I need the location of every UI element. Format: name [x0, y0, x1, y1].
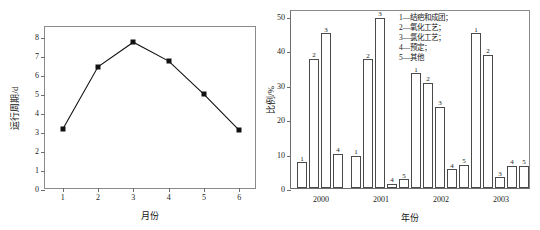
figure-container: 012345678 123456 月份 运行周期/d 01020304050 1…: [0, 0, 540, 230]
x-axis-tick-label: 2: [96, 194, 100, 202]
x-axis-tick-label: 4: [167, 194, 171, 202]
bar-2003-2: [483, 55, 494, 188]
data-point-marker: [166, 59, 171, 64]
y-axis-tick-label: 3: [35, 129, 39, 137]
y-axis-tick: [287, 18, 291, 19]
y-axis-tick-label: 6: [35, 72, 39, 80]
bar-2000-2: [309, 59, 320, 188]
bar-value-label: 4: [390, 177, 394, 184]
bar-value-label: 4: [336, 147, 340, 154]
bar-2003-3: [495, 177, 506, 188]
y-axis-tick-label: 0: [281, 186, 285, 194]
bar-2001-3: [375, 18, 386, 188]
bar-value-label: 3: [324, 27, 328, 34]
data-point-marker: [60, 127, 65, 132]
y-axis-tick-label: 7: [35, 53, 39, 61]
bar-chart-panel: 01020304050 1234123451234512345 20002001…: [268, 0, 540, 230]
data-point-marker: [131, 40, 136, 45]
bar-2002-4: [447, 169, 458, 188]
y-axis-tick: [287, 190, 291, 191]
y-axis-tick: [287, 156, 291, 157]
y-axis-tick-label: 20: [277, 117, 285, 125]
legend-entry-3: 3—氯化工艺；: [399, 33, 452, 43]
category-label-2003: 2003: [493, 195, 509, 204]
bar-2002-3: [435, 107, 446, 188]
bar-2003-1: [471, 33, 482, 188]
y-axis-tick-label: 0: [35, 186, 39, 194]
bar-2001-5: [399, 179, 410, 188]
line-chart-panel: 012345678 123456 月份 运行周期/d: [0, 0, 268, 230]
legend-entry-1: 1—结疤和成团；: [399, 13, 452, 23]
bar-chart-x-axis-title: 年份: [401, 211, 419, 224]
bar-value-label: 1: [474, 27, 478, 34]
y-axis-tick-label: 4: [35, 110, 39, 118]
bar-value-label: 3: [498, 171, 502, 178]
y-axis-tick: [287, 52, 291, 53]
y-axis-tick: [287, 87, 291, 88]
y-axis-tick-label: 50: [277, 14, 285, 22]
data-point-marker: [96, 64, 101, 69]
y-axis-tick: [41, 190, 45, 191]
legend-entry-5: 5—其他: [399, 53, 452, 63]
bar-value-label: 5: [522, 159, 526, 166]
data-point-marker: [237, 128, 242, 133]
bar-value-label: 3: [378, 11, 382, 18]
data-point-marker: [202, 92, 207, 97]
x-axis-tick-label: 1: [61, 194, 65, 202]
y-axis-tick-label: 5: [35, 91, 39, 99]
bar-2000-4: [333, 154, 344, 188]
y-axis-tick-label: 40: [277, 48, 285, 56]
legend-entry-2: 2—氧化工艺；: [399, 23, 452, 33]
category-label-2000: 2000: [313, 195, 329, 204]
bar-value-label: 5: [402, 173, 406, 180]
line-series-path: [45, 27, 257, 190]
bar-value-label: 4: [450, 163, 454, 170]
bar-2003-5: [519, 166, 530, 188]
bar-value-label: 2: [486, 48, 490, 55]
y-axis-tick-label: 30: [277, 83, 285, 91]
bar-value-label: 3: [438, 100, 442, 107]
y-axis-tick-label: 10: [277, 152, 285, 160]
y-axis-tick-label: 1: [35, 167, 39, 175]
y-axis-tick-label: 2: [35, 148, 39, 156]
bar-value-label: 1: [414, 67, 418, 74]
bar-2003-4: [507, 166, 518, 188]
legend-entry-4: 4—预定；: [399, 43, 452, 53]
x-axis-tick-label: 6: [237, 194, 241, 202]
category-label-2001: 2001: [373, 195, 389, 204]
bar-2001-4: [387, 184, 398, 188]
x-axis-tick-label: 5: [202, 194, 206, 202]
bar-value-label: 2: [312, 52, 316, 59]
bar-chart-legend: 1—结疤和成团；2—氧化工艺；3—氯化工艺；4—预定；5—其他: [399, 13, 452, 62]
bar-2002-5: [459, 165, 470, 188]
y-axis-tick-label: 8: [35, 34, 39, 42]
category-label-2002: 2002: [433, 195, 449, 204]
y-axis-tick: [287, 121, 291, 122]
bar-value-label: 1: [300, 156, 304, 163]
bar-value-label: 1: [354, 149, 358, 156]
bar-2001-1: [351, 156, 362, 188]
bar-2001-2: [363, 59, 374, 188]
bar-chart-y-axis-title: 比例/%: [264, 86, 277, 114]
bar-value-label: 5: [462, 158, 466, 165]
bar-2002-2: [423, 83, 434, 188]
bar-2002-1: [411, 73, 422, 188]
line-chart-x-axis-title: 月份: [141, 209, 159, 222]
line-chart-plot-area: 012345678 123456: [44, 26, 256, 189]
bar-value-label: 4: [510, 159, 514, 166]
bar-2000-3: [321, 33, 332, 188]
bar-2000-1: [297, 162, 308, 188]
bar-chart-plot-area: 01020304050 1234123451234512345 20002001…: [290, 10, 530, 189]
line-chart-y-axis-title: 运行周期/d: [8, 86, 21, 129]
bar-value-label: 2: [426, 76, 430, 83]
bar-value-label: 2: [366, 53, 370, 60]
x-axis-tick-label: 3: [131, 194, 135, 202]
